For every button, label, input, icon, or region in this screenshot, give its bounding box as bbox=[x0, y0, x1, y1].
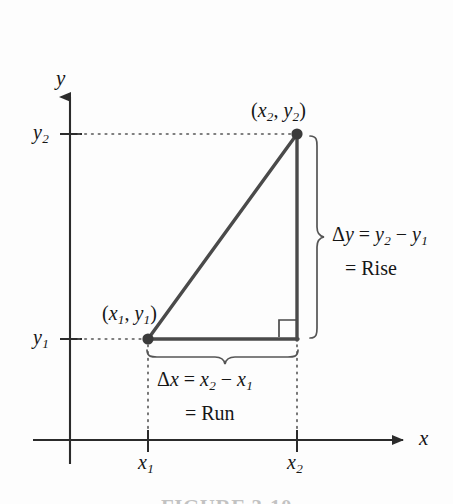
y-axis-tick-label-y1: y1 bbox=[33, 327, 49, 350]
delta-y-equation: Δy = y2 − y1 bbox=[332, 224, 428, 247]
x-axis-label: x bbox=[419, 428, 428, 449]
delta-x-term2-subscript: 1 bbox=[246, 378, 253, 393]
point1-close-paren: ) bbox=[150, 302, 157, 324]
tick-y2-var: y bbox=[33, 121, 42, 143]
point2-close-paren: ) bbox=[299, 99, 306, 121]
figure-caption: FIGURE 3-10 bbox=[0, 497, 453, 504]
delta-x-symbol: Δ bbox=[157, 368, 170, 390]
rise-brace bbox=[310, 136, 324, 338]
y-axis-tick-label-y2: y2 bbox=[33, 122, 49, 145]
tick-x1-subscript: 1 bbox=[147, 461, 154, 476]
point2-x-var: x bbox=[258, 99, 267, 121]
delta-y-term2-subscript: 1 bbox=[421, 233, 428, 248]
point1-open-paren: ( bbox=[102, 302, 109, 324]
point1-comma: , bbox=[124, 302, 134, 324]
triangle-hypotenuse bbox=[148, 134, 297, 339]
tick-y1-subscript: 1 bbox=[42, 336, 49, 351]
delta-y-minus: − bbox=[391, 223, 412, 245]
x-axis-tick-label-x1: x1 bbox=[138, 452, 154, 475]
delta-x-var: x bbox=[170, 368, 179, 390]
delta-x-equation: Δx = x2 − x1 bbox=[157, 369, 253, 392]
point1-x-var: x bbox=[109, 302, 118, 324]
tick-y1-var: y bbox=[33, 326, 42, 348]
delta-y-rise-label: = Rise bbox=[345, 258, 397, 278]
point-label-lower-left: (x1, y1) bbox=[102, 303, 157, 326]
delta-y-equals: = bbox=[354, 223, 375, 245]
delta-x-run-label: = Run bbox=[185, 403, 235, 423]
y-axis-label: y bbox=[56, 68, 65, 89]
vertex-dot-lower-left bbox=[142, 333, 153, 344]
right-angle-marker bbox=[279, 320, 296, 337]
point2-comma: , bbox=[273, 99, 283, 121]
delta-y-term1: y bbox=[375, 223, 384, 245]
point2-y-var: y bbox=[283, 99, 292, 121]
point2-open-paren: ( bbox=[251, 99, 258, 121]
delta-x-term2: x bbox=[237, 368, 246, 390]
delta-y-var: y bbox=[345, 223, 354, 245]
delta-x-term1-subscript: 2 bbox=[209, 378, 216, 393]
delta-x-minus: − bbox=[216, 368, 237, 390]
x-axis-tick-label-x2: x2 bbox=[287, 452, 303, 475]
tick-x2-subscript: 2 bbox=[296, 461, 303, 476]
tick-y2-subscript: 2 bbox=[42, 131, 49, 146]
delta-y-term1-subscript: 2 bbox=[384, 233, 391, 248]
point1-y-var: y bbox=[134, 302, 143, 324]
figure-graphic bbox=[0, 0, 453, 504]
delta-y-term2: y bbox=[412, 223, 421, 245]
run-brace bbox=[147, 350, 298, 364]
delta-x-term1: x bbox=[200, 368, 209, 390]
tick-x1-var: x bbox=[138, 451, 147, 473]
delta-y-symbol: Δ bbox=[332, 223, 345, 245]
delta-x-equals: = bbox=[179, 368, 200, 390]
point-label-upper-right: (x2, y2) bbox=[251, 100, 306, 123]
vertex-dot-upper-right bbox=[291, 128, 302, 139]
slope-figure: y x y2 y1 x1 x2 (x2, y2) (x1, y1) Δy = y… bbox=[0, 0, 453, 504]
tick-x2-var: x bbox=[287, 451, 296, 473]
